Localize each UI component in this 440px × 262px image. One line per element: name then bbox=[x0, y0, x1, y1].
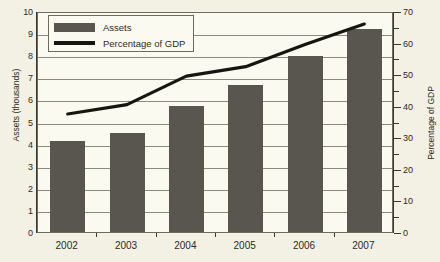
right-axis-tickmark bbox=[394, 233, 401, 234]
right-axis-tickmark bbox=[394, 138, 401, 139]
x-axis-label-2005: 2005 bbox=[234, 240, 256, 251]
right-axis-tickmark bbox=[394, 201, 401, 202]
left-axis-tick-9: 9 bbox=[9, 29, 33, 39]
right-axis-tick-70: 70 bbox=[403, 7, 413, 17]
right-axis-tickmark bbox=[394, 91, 399, 92]
x-axis-tickmark bbox=[334, 233, 335, 237]
x-axis-tickmark bbox=[274, 233, 275, 237]
right-axis-tickmark bbox=[394, 170, 401, 171]
left-axis-tick-1: 1 bbox=[9, 206, 33, 216]
right-axis-tickmark bbox=[394, 59, 399, 60]
legend-swatch-line-icon bbox=[54, 41, 95, 45]
right-axis-tick-50: 50 bbox=[403, 70, 413, 80]
right-axis-tickmark bbox=[394, 186, 399, 187]
left-axis-title: Assets (thousands) bbox=[11, 45, 21, 165]
right-axis-tick-40: 40 bbox=[403, 102, 413, 112]
right-axis-tick-10: 10 bbox=[403, 196, 413, 206]
legend-swatch-bar-icon bbox=[54, 23, 95, 32]
right-axis-tickmark bbox=[394, 154, 399, 155]
x-axis-label-2003: 2003 bbox=[115, 240, 137, 251]
right-axis-title: Percentage of GDP bbox=[426, 58, 436, 188]
right-axis-tickmark bbox=[394, 12, 401, 13]
legend-item-assets: Assets bbox=[54, 19, 188, 35]
x-axis-tickmark bbox=[156, 233, 157, 237]
left-axis-tick-10: 10 bbox=[9, 7, 33, 17]
x-axis-label-2006: 2006 bbox=[293, 240, 315, 251]
x-axis-label-2007: 2007 bbox=[352, 240, 374, 251]
x-axis-tickmark bbox=[215, 233, 216, 237]
left-axis-tick-0: 0 bbox=[9, 228, 33, 238]
right-axis-tick-30: 30 bbox=[403, 133, 413, 143]
right-axis-tick-0: 0 bbox=[403, 228, 408, 238]
legend-label-percentage-of-gdp: Percentage of GDP bbox=[103, 38, 185, 49]
right-axis-tickmark bbox=[394, 217, 399, 218]
right-axis-tick-20: 20 bbox=[403, 165, 413, 175]
right-axis-tickmark bbox=[394, 107, 401, 108]
right-axis-tickmark bbox=[394, 28, 399, 29]
x-axis-tickmark bbox=[96, 233, 97, 237]
right-axis-tickmark bbox=[394, 44, 401, 45]
legend-label-assets: Assets bbox=[103, 22, 132, 33]
left-axis-tick-2: 2 bbox=[9, 184, 33, 194]
legend-item-percentage-of-gdp: Percentage of GDP bbox=[54, 35, 188, 51]
chart-legend: Assets Percentage of GDP bbox=[48, 15, 194, 52]
x-axis-label-2002: 2002 bbox=[56, 240, 78, 251]
x-axis-label-2004: 2004 bbox=[174, 240, 196, 251]
right-axis-tickmark bbox=[394, 123, 399, 124]
right-axis-tickmark bbox=[394, 75, 401, 76]
right-axis-tick-60: 60 bbox=[403, 39, 413, 49]
assets-gdp-chart: 012345678910 Assets (thousands) 01020304… bbox=[0, 0, 440, 262]
